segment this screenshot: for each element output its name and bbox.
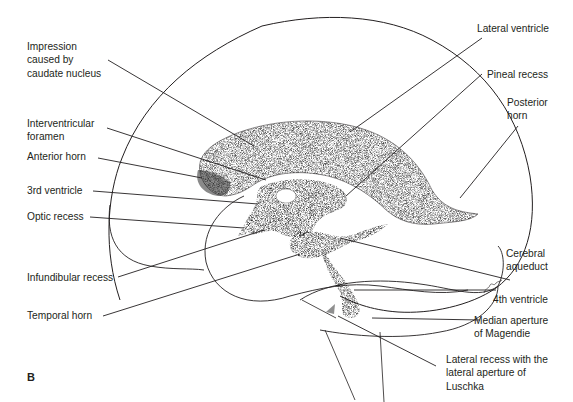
label-anterior-horn: Anterior horn — [27, 150, 86, 163]
label-pineal-recess: Pineal recess — [487, 68, 548, 81]
ventricular-system-diagram: Impression caused by caudate nucleus Int… — [0, 0, 573, 402]
fourth-ventricle-shape — [322, 254, 360, 318]
cerebellum-outline — [300, 246, 503, 336]
label-lateral-recess-luschka: Lateral recess with the lateral aperture… — [446, 353, 548, 393]
label-cerebral-aqueduct: Cerebral aqueduct — [506, 247, 548, 274]
label-median-aperture-magendie: Median aperture of Magendie — [474, 314, 548, 341]
label-lateral-ventricle: Lateral ventricle — [477, 22, 549, 35]
label-posterior-horn: Posterior horn — [507, 96, 548, 123]
label-optic-recess: Optic recess — [27, 210, 84, 223]
frontal-lobe-outline — [109, 205, 204, 270]
brainstem-outline — [302, 300, 384, 402]
third-ventricle-shape — [238, 179, 347, 237]
label-infundibular-recess: Infundibular recess — [27, 271, 113, 284]
label-third-ventricle: 3rd ventricle — [27, 184, 83, 197]
panel-letter: B — [27, 371, 35, 383]
label-temporal-horn: Temporal horn — [27, 309, 92, 322]
label-impression-caudate-nucleus: Impression caused by caudate nucleus — [27, 40, 101, 80]
label-fourth-ventricle: 4th ventricle — [493, 293, 548, 306]
label-interventricular-foramen: Interventricular foramen — [27, 117, 94, 144]
interthalamic-adhesion — [276, 189, 296, 203]
